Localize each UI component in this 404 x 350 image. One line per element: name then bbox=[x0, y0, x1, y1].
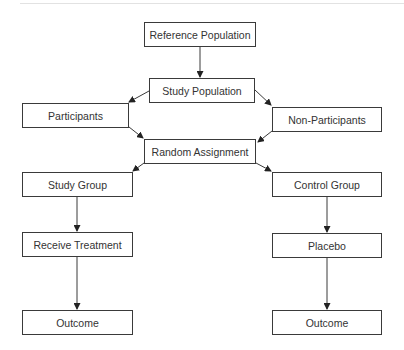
node-label: Study Population bbox=[162, 85, 241, 97]
node-label: Receive Treatment bbox=[33, 239, 121, 251]
node-label: Control Group bbox=[294, 179, 360, 191]
edge-participants-to-random-assignment bbox=[129, 127, 143, 138]
node-study-population: Study Population bbox=[149, 78, 255, 103]
node-label: Non-Participants bbox=[288, 114, 366, 126]
node-label: Placebo bbox=[308, 240, 346, 252]
node-outcome-study: Outcome bbox=[22, 310, 133, 335]
node-control-group: Control Group bbox=[272, 172, 382, 197]
node-non-participants: Non-Participants bbox=[272, 107, 382, 132]
edge-study-population-to-participants bbox=[129, 91, 149, 102]
edge-non-participants-to-random-assignment bbox=[258, 131, 272, 142]
edge-random-assignment-to-control-group bbox=[256, 163, 271, 171]
node-label: Participants bbox=[48, 110, 103, 122]
node-label: Study Group bbox=[48, 179, 107, 191]
node-random-assignment: Random Assignment bbox=[144, 139, 256, 164]
node-receive-treatment: Receive Treatment bbox=[22, 232, 133, 257]
node-placebo: Placebo bbox=[272, 233, 382, 258]
node-label: Random Assignment bbox=[152, 146, 249, 158]
edge-study-population-to-non-participants bbox=[255, 90, 271, 105]
node-study-group: Study Group bbox=[22, 172, 133, 197]
node-participants: Participants bbox=[22, 103, 129, 128]
node-label: Outcome bbox=[56, 317, 99, 329]
node-outcome-control: Outcome bbox=[272, 310, 382, 335]
node-label: Reference Population bbox=[150, 29, 251, 41]
node-label: Outcome bbox=[306, 317, 349, 329]
node-reference-population: Reference Population bbox=[144, 22, 256, 47]
edge-random-assignment-to-study-group bbox=[133, 163, 144, 171]
